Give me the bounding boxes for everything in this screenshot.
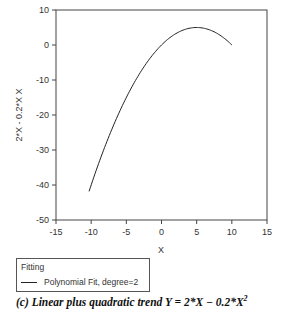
line-swatch-icon: [21, 282, 37, 283]
legend-item-label: Polynomial Fit, degree=2: [44, 277, 138, 287]
x-axis-ticks: -15-10-5051015: [49, 220, 272, 237]
figure-caption: (c) Linear plus quadratic trend Y = 2*X …: [16, 294, 248, 308]
x-axis-label: X: [158, 245, 164, 255]
y-tick-label: -40: [36, 180, 49, 190]
legend: Fitting Polynomial Fit, degree=2: [16, 258, 150, 292]
y-tick-label: -50: [36, 215, 49, 225]
caption-text: (c) Linear plus quadratic trend: [16, 296, 165, 308]
x-tick-label: -10: [85, 227, 98, 237]
caption-exponent: 2: [244, 294, 248, 303]
polynomial-fit-line: [89, 28, 232, 192]
x-tick-label: 5: [194, 227, 199, 237]
y-tick-label: -10: [36, 75, 49, 85]
y-tick-label: 0: [44, 40, 49, 50]
x-tick-label: 10: [227, 227, 237, 237]
plot-frame: [56, 10, 267, 220]
legend-title: Fitting: [21, 262, 44, 272]
x-tick-label: -5: [122, 227, 130, 237]
chart: -50-40-30-20-10010 -15-10-5051015 X 2*X …: [0, 0, 288, 260]
legend-item: Polynomial Fit, degree=2: [21, 277, 138, 287]
y-tick-label: -30: [36, 145, 49, 155]
y-tick-label: 10: [39, 5, 49, 15]
caption-formula: Y = 2*X − 0.2*X: [165, 296, 244, 308]
x-tick-label: 0: [159, 227, 164, 237]
y-axis-label: 2*X - 0.2*X X: [14, 88, 24, 141]
x-tick-label: 15: [262, 227, 272, 237]
y-axis-ticks: -50-40-30-20-10010: [36, 5, 56, 225]
y-tick-label: -20: [36, 110, 49, 120]
x-tick-label: -15: [49, 227, 62, 237]
